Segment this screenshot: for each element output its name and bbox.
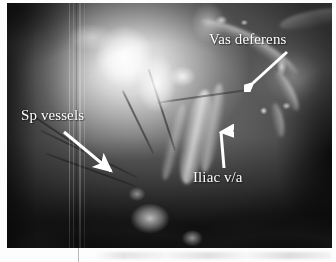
page-smudge-artifact: [95, 252, 331, 259]
annotation-label-sp-vessels: Sp vessels: [21, 108, 84, 123]
annotation-label-vas-deferens: Vas deferens: [209, 32, 286, 47]
figure-root: Vas deferens Sp vessels Iliac v/a: [0, 0, 336, 262]
annotation-label-iliac-va: Iliac v/a: [193, 170, 243, 185]
page-rule-artifact: [78, 248, 79, 262]
